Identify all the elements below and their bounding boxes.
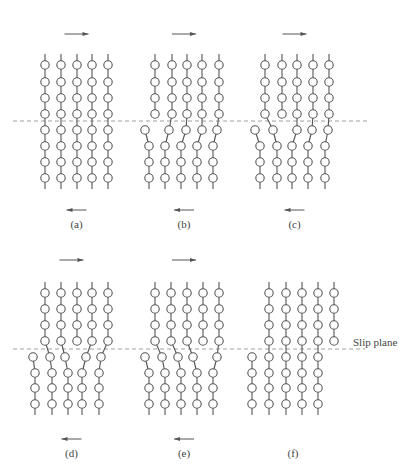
atom-circle: [88, 321, 96, 329]
atom-circle: [48, 369, 56, 377]
atom-circle: [48, 384, 56, 392]
atom-circle: [158, 353, 166, 361]
panel-d: (d): [29, 258, 112, 460]
atom-circle: [82, 353, 90, 361]
atom-circle: [41, 126, 49, 134]
atom-circle: [278, 110, 286, 118]
atom-circle: [41, 61, 49, 69]
atom-circle: [261, 78, 269, 86]
atom-circle: [269, 126, 277, 134]
atom-circle: [215, 305, 223, 313]
atom-circle: [256, 142, 264, 150]
atom-circle: [314, 289, 322, 297]
atom-circle: [165, 126, 173, 134]
atom-circle: [330, 289, 338, 297]
atom-circle: [199, 321, 207, 329]
atom-circle: [73, 305, 81, 313]
atom-circle: [88, 174, 96, 182]
atom-circle: [41, 78, 49, 86]
atom-circle: [104, 94, 112, 102]
atom-circle: [145, 400, 153, 408]
atom-circle: [151, 305, 159, 313]
atom-circle: [309, 94, 317, 102]
atom-circle: [104, 158, 112, 166]
atom-circle: [168, 78, 176, 86]
atom-circle: [278, 78, 286, 86]
atom-circle: [48, 400, 56, 408]
atom-circle: [151, 78, 159, 86]
atom-circle: [265, 369, 273, 377]
atom-circle: [95, 369, 103, 377]
shear-arrow-bottom: [174, 208, 194, 212]
atom-circle: [167, 305, 175, 313]
atom-circle: [209, 400, 217, 408]
atom-circle: [193, 384, 201, 392]
atom-circle: [57, 110, 65, 118]
atom-circle: [213, 353, 221, 361]
atom-circle: [189, 353, 197, 361]
atom-circle: [41, 289, 49, 297]
shear-arrow-top: [172, 32, 196, 36]
atom-circle: [209, 142, 217, 150]
panel-label-d: (d): [65, 447, 78, 460]
atom-circle: [321, 142, 329, 150]
atom-circle: [88, 158, 96, 166]
atom-circle: [177, 174, 185, 182]
atom-circle: [41, 110, 49, 118]
atom-circle: [183, 94, 191, 102]
atom-circle: [41, 321, 49, 329]
atom-circle: [97, 353, 105, 361]
atom-circle: [183, 305, 191, 313]
atom-circle: [104, 337, 112, 345]
atom-circle: [324, 126, 332, 134]
atom-circle: [104, 126, 112, 134]
atom-circle: [256, 158, 264, 166]
atom-circle: [248, 353, 256, 361]
atom-circle: [282, 337, 290, 345]
atom-circle: [78, 369, 86, 377]
atom-circle: [198, 78, 206, 86]
arrow-head: [301, 32, 307, 36]
atom-circle: [273, 142, 281, 150]
atom-circle: [298, 321, 306, 329]
panel-f: (f): [248, 282, 338, 460]
atom-circle: [151, 337, 159, 345]
atom-circle: [273, 158, 281, 166]
atom-circle: [282, 400, 290, 408]
atom-circle: [209, 158, 217, 166]
atom-circle: [293, 126, 301, 134]
atom-circle: [141, 353, 149, 361]
atom-circle: [57, 158, 65, 166]
atom-circle: [183, 78, 191, 86]
atom-circle: [278, 94, 286, 102]
atom-circle: [265, 384, 273, 392]
atom-circle: [251, 126, 259, 134]
atom-circle: [145, 384, 153, 392]
dislocation-diagram: (a)(b)(c)(d)(e)(f) Slip plane: [0, 0, 408, 470]
atom-circle: [161, 400, 169, 408]
atom-circle: [309, 110, 317, 118]
atom-circle: [298, 337, 306, 345]
atom-circle: [325, 94, 333, 102]
atom-circle: [183, 289, 191, 297]
atom-circle: [304, 142, 312, 150]
atom-circle: [304, 158, 312, 166]
atom-circle: [199, 305, 207, 313]
atom-circle: [215, 61, 223, 69]
panel-label-c: (c): [288, 218, 301, 231]
panel-c: (c): [251, 32, 333, 231]
atom-circle: [161, 384, 169, 392]
atom-circle: [41, 142, 49, 150]
atom-circle: [161, 174, 169, 182]
atom-circle: [282, 289, 290, 297]
atom-circle: [199, 289, 207, 297]
panel-a: (a): [41, 32, 112, 231]
atom-circle: [215, 78, 223, 86]
atom-circle: [293, 61, 301, 69]
atom-circle: [29, 353, 37, 361]
atom-circle: [282, 305, 290, 313]
atom-circle: [321, 158, 329, 166]
atom-circle: [325, 78, 333, 86]
shear-arrow-bottom: [285, 208, 305, 212]
atom-circle: [177, 400, 185, 408]
